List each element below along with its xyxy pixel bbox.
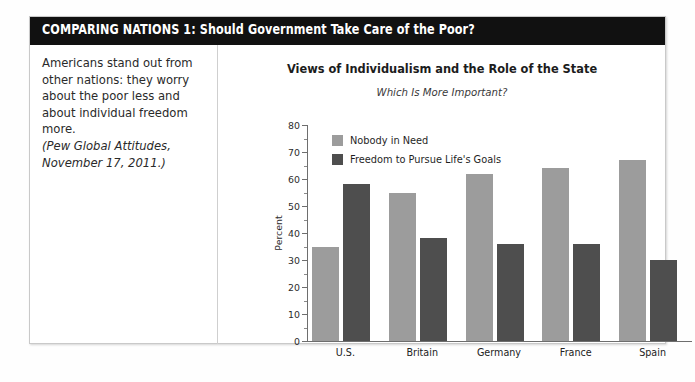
bar [312,247,339,342]
chart-subtitle: Which Is More Important? [219,87,665,98]
bar [542,168,569,341]
bar [389,193,416,342]
side-note-body: Americans stand out from other nations: … [42,55,210,138]
y-tick [302,341,307,342]
y-tick-label: 40 [288,228,300,239]
bar [420,238,447,341]
chart-panel: Views of Individualism and the Role of t… [219,45,665,343]
legend-swatch-icon [332,154,343,165]
x-tick-label: Germany [461,347,538,358]
chart-legend: Nobody in Need Freedom to Pursue Life's … [332,133,501,171]
x-axis-line [307,341,692,342]
bar-group: Spain [614,125,691,341]
figure-title: COMPARING NATIONS 1: Should Government T… [42,22,475,37]
column-divider [217,45,218,344]
x-tick-label: Britain [384,347,461,358]
page-root: COMPARING NATIONS 1: Should Government T… [0,0,695,382]
y-tick-label: 50 [288,201,300,212]
legend-swatch-icon [332,135,343,146]
figure-frame: COMPARING NATIONS 1: Should Government T… [29,16,666,344]
figure-title-bar: COMPARING NATIONS 1: Should Government T… [30,17,665,45]
legend-label: Freedom to Pursue Life's Goals [350,154,501,165]
y-tick-label: 10 [288,309,300,320]
legend-item: Nobody in Need [332,133,501,148]
y-axis-title: Percent [273,215,284,250]
chart-title: Views of Individualism and the Role of t… [219,62,665,76]
y-tick-label: 20 [288,282,300,293]
legend-label: Nobody in Need [350,135,428,146]
bar [497,244,524,341]
y-tick-label: 70 [288,147,300,158]
x-tick-label: U.S. [307,347,384,358]
x-tick-label: France [537,347,614,358]
bar-group: France [537,125,614,341]
bar [573,244,600,341]
legend-item: Freedom to Pursue Life's Goals [332,152,501,167]
bar [466,174,493,341]
y-tick-label: 30 [288,255,300,266]
y-tick-label: 60 [288,174,300,185]
bar [650,260,677,341]
bar [619,160,646,341]
x-tick-label: Spain [614,347,691,358]
y-tick-label: 0 [294,336,300,347]
y-tick-label: 80 [288,120,300,131]
side-note: Americans stand out from other nations: … [42,55,210,171]
side-note-citation: (Pew Global Attitudes, November 17, 2011… [42,138,210,171]
bar [343,184,370,341]
